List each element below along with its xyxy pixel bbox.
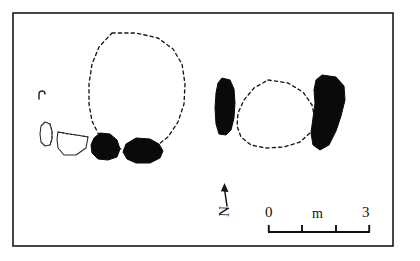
right-dashed-enclosure <box>237 80 315 148</box>
stone-filled-right-west <box>215 78 235 135</box>
site-plan-canvas <box>0 0 420 261</box>
scale-label-unit: m <box>312 207 323 221</box>
stone-filled-left-a <box>91 133 120 160</box>
small-hook-mark <box>39 91 45 99</box>
site-plan-figure: 0 m 3 N <box>0 0 420 261</box>
stone-filled-left-b <box>123 138 163 163</box>
scale-bar-graphic <box>268 225 370 232</box>
scale-label-start: 0 <box>265 205 273 220</box>
outline-stone-trapezoid <box>57 132 88 155</box>
north-label: N <box>216 206 233 217</box>
scale-label-end: 3 <box>362 205 370 220</box>
north-arrow-icon <box>221 183 229 206</box>
stone-filled-right-east <box>311 75 345 150</box>
